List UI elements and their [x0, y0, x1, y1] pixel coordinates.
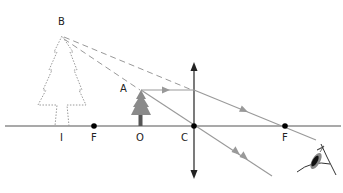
label-O: O: [136, 133, 144, 143]
virtual-image-tree: [38, 36, 86, 126]
arrow-icon: [162, 87, 170, 94]
virtual-rays: [64, 37, 192, 90]
arrow-icon: [239, 105, 248, 112]
lens-diagram: B A I F O C F: [0, 0, 343, 193]
ray-arrowheads: [162, 87, 248, 161]
label-F-right: F: [282, 133, 288, 143]
label-F-left: F: [91, 133, 97, 143]
convex-lens: [191, 62, 198, 179]
real-object-tree: [131, 90, 151, 126]
arrow-icon: [232, 146, 241, 155]
label-A: A: [120, 84, 127, 94]
focal-point-right: [282, 123, 288, 129]
real-rays: [141, 90, 316, 176]
label-B: B: [58, 17, 65, 27]
label-C: C: [181, 133, 188, 143]
focal-point-left: [91, 123, 97, 129]
lens-arrow-top-icon: [191, 62, 198, 71]
optical-center: [191, 123, 197, 129]
arrow-icon: [240, 151, 249, 160]
eye-icon: [297, 144, 336, 175]
lens-arrow-bottom-icon: [191, 170, 198, 179]
label-I: I: [60, 133, 63, 143]
diagram-canvas: [0, 0, 343, 193]
